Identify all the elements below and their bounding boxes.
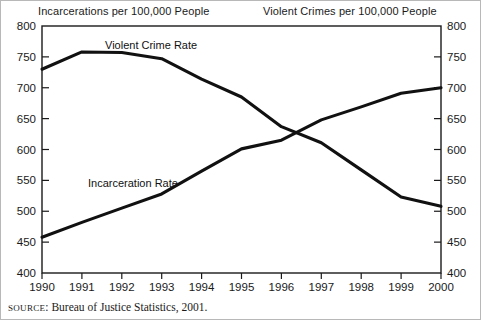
left-tick-700: 700 [2,82,36,94]
x-tick-1991: 1991 [65,281,99,293]
right-tick-400: 400 [447,267,481,279]
left-tick-600: 600 [2,144,36,156]
series-label-violent-crime-rate: Violent Crime Rate [105,39,197,51]
data-series [42,52,441,237]
x-tick-2000: 2000 [424,281,458,293]
left-tick-550: 550 [2,174,36,186]
right-tick-800: 800 [447,20,481,32]
chart-figure: Incarcerations per 100,000 People Violen… [0,0,481,320]
x-tick-1995: 1995 [225,281,259,293]
x-tick-1990: 1990 [25,281,59,293]
right-tick-500: 500 [447,205,481,217]
left-tick-650: 650 [2,113,36,125]
right-tick-750: 750 [447,51,481,63]
left-tick-450: 450 [2,236,36,248]
source-value: : Bureau of Justice Statistics, 2001. [45,301,207,313]
plot-canvas [1,1,481,320]
x-tick-1999: 1999 [384,281,418,293]
left-tick-750: 750 [2,51,36,63]
right-tick-450: 450 [447,236,481,248]
x-tick-1994: 1994 [185,281,219,293]
x-tick-1993: 1993 [145,281,179,293]
right-tick-700: 700 [447,82,481,94]
x-tick-1996: 1996 [264,281,298,293]
left-tick-800: 800 [2,20,36,32]
right-tick-550: 550 [447,174,481,186]
right-tick-650: 650 [447,113,481,125]
left-tick-400: 400 [2,267,36,279]
source-label: SOURCE [8,303,45,313]
source-note: SOURCE: Bureau of Justice Statistics, 20… [8,301,207,315]
x-tick-1997: 1997 [304,281,338,293]
series-label-incarceration-rate: Incarceration Rate [88,177,178,189]
right-tick-600: 600 [447,144,481,156]
axis-ticks [42,57,441,279]
x-tick-1998: 1998 [344,281,378,293]
left-tick-500: 500 [2,205,36,217]
x-tick-1992: 1992 [105,281,139,293]
